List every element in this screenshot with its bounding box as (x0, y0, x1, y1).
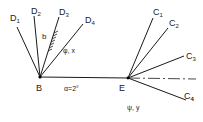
label-phi-x: φ, x (63, 47, 75, 55)
ray-c1 (128, 18, 153, 78)
ray-c4 (128, 78, 186, 100)
c-rays (128, 18, 186, 100)
label-psi-y: ψ, y (127, 104, 140, 112)
label-c3: C3 (186, 51, 197, 62)
label-d2: D2 (31, 6, 42, 17)
ray-d3 (40, 17, 59, 77)
label-d1: D1 (10, 13, 21, 24)
label-c1: C1 (153, 7, 164, 18)
label-alpha: α=2° (64, 85, 79, 92)
joint-b (38, 75, 41, 78)
base-line-b-e (40, 77, 128, 78)
label-point-b: B (36, 83, 42, 93)
ray-d2 (34, 16, 40, 77)
hatching-d3 (48, 31, 58, 51)
centerline (128, 78, 196, 79)
label-b-lower: b (42, 32, 47, 41)
ray-d1 (17, 27, 40, 77)
diagram: D1 D2 D3 D4 C1 C2 C3 C4 b φ, x B α=2° E … (0, 0, 203, 122)
label-d3: D3 (59, 7, 70, 18)
label-c2: C2 (169, 18, 180, 29)
label-d4: D4 (85, 15, 96, 26)
label-c4: C4 (184, 91, 195, 102)
label-point-e: E (119, 83, 125, 93)
joint-e (127, 77, 130, 80)
